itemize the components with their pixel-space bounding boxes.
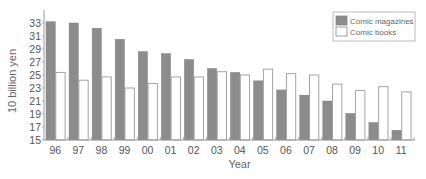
y-tick-label: 23: [29, 82, 41, 94]
bar-comic-books-11: [402, 92, 411, 140]
x-tick-label: 97: [73, 144, 85, 156]
bar-comic-books-06: [286, 74, 295, 140]
bar-comic-magazines-07: [300, 95, 309, 140]
y-tick-label: 17: [29, 121, 41, 133]
bar-comic-books-99: [125, 88, 134, 140]
bar-comic-magazines-06: [277, 90, 286, 140]
x-tick-label: 98: [96, 144, 108, 156]
x-tick-label: 08: [326, 144, 338, 156]
y-tick-label: 27: [29, 56, 41, 68]
legend-swatch-comic-books: [336, 27, 347, 36]
bar-comic-magazines-11: [392, 130, 401, 140]
y-tick-label: 15: [29, 134, 41, 146]
bar-comic-magazines-98: [92, 28, 101, 140]
x-tick-label: 07: [303, 144, 315, 156]
bar-comic-magazines-03: [207, 69, 216, 141]
bar-comic-books-02: [194, 77, 203, 140]
bar-comic-books-98: [102, 77, 111, 140]
bar-comic-magazines-01: [161, 54, 170, 140]
y-tick-label: 25: [29, 69, 41, 81]
bar-comic-magazines-02: [184, 59, 193, 140]
bar-comic-magazines-04: [231, 72, 240, 140]
x-tick-label: 99: [119, 144, 131, 156]
x-tick-label: 09: [349, 144, 361, 156]
y-tick-label: 31: [29, 30, 41, 42]
y-tick-label: 29: [29, 43, 41, 55]
bar-comic-magazines-08: [323, 101, 332, 140]
legend-label-comic-magazines: Comic magazines: [350, 17, 414, 26]
bar-comic-magazines-05: [254, 81, 263, 140]
bar-comic-magazines-09: [346, 113, 355, 140]
bar-comic-books-08: [333, 84, 342, 140]
bar-comic-magazines-99: [115, 39, 124, 140]
x-tick-label: 02: [188, 144, 200, 156]
bar-comic-books-00: [148, 83, 157, 140]
y-tick-label: 21: [29, 95, 41, 107]
bar-chart: 15171921232527293133 9697989900010203040…: [0, 0, 426, 179]
bar-comic-magazines-96: [46, 22, 55, 140]
x-tick-label: 03: [211, 144, 223, 156]
bar-comic-books-97: [79, 80, 88, 140]
bar-comic-books-05: [263, 69, 272, 140]
bar-comic-books-04: [240, 75, 249, 140]
legend-swatch-comic-magazines: [336, 16, 347, 25]
bar-comic-books-03: [217, 72, 226, 140]
y-axis-title: 10 billion yen: [6, 49, 18, 113]
bar-comic-books-10: [379, 87, 388, 140]
x-tick-label: 10: [372, 144, 384, 156]
x-tick-label: 06: [280, 144, 292, 156]
bar-comic-books-01: [171, 77, 180, 140]
x-tick-label: 96: [49, 144, 61, 156]
bar-comic-books-07: [309, 75, 318, 140]
x-tick-label: 01: [165, 144, 177, 156]
bar-comic-magazines-00: [138, 52, 147, 140]
y-ticks: 15171921232527293133: [29, 17, 44, 146]
x-tick-label: 05: [257, 144, 269, 156]
x-tick-label: 11: [396, 144, 407, 156]
x-tick-label: 04: [234, 144, 246, 156]
bar-comic-magazines-97: [69, 23, 78, 140]
bar-comic-books-96: [56, 72, 65, 140]
y-tick-label: 19: [29, 108, 41, 120]
legend-label-comic-books: Comic books: [350, 28, 396, 37]
bar-comic-magazines-10: [369, 122, 378, 140]
bar-comic-books-09: [356, 91, 365, 140]
legend: Comic magazines Comic books: [333, 12, 415, 41]
y-tick-label: 33: [29, 17, 41, 29]
x-axis-title: Year: [228, 158, 251, 170]
x-tick-label: 00: [142, 144, 154, 156]
